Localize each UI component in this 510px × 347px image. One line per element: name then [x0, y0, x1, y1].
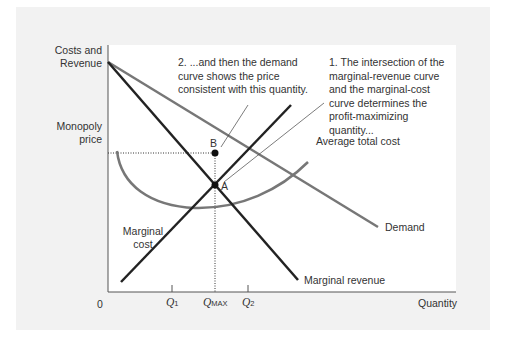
y-axis-title-line1: Costs and [40, 44, 102, 57]
q1-subscript: 1 [174, 299, 178, 308]
x-axis-title: Quantity [418, 297, 457, 310]
monopoly-price-line2: price [40, 133, 102, 146]
demand-label: Demand [385, 221, 425, 234]
qmax-label: QMAX [203, 296, 228, 310]
marginal-cost-label: Marginal cost [118, 225, 168, 251]
y-axis-title-line2: Revenue [40, 57, 102, 70]
annotation-step-2: 2. ...and then the demand curve shows th… [178, 56, 326, 97]
point-a-marker [212, 182, 219, 189]
q2-subscript: 2 [250, 299, 254, 308]
q2-label: Q2 [242, 296, 254, 310]
point-b-label: B [210, 137, 217, 150]
monopoly-price-label: Monopoly price [40, 120, 102, 146]
marginal-cost-line1: Marginal [118, 225, 168, 238]
average-total-cost-curve [117, 151, 308, 208]
origin-label: 0 [97, 298, 103, 311]
marginal-cost-line2: cost [118, 238, 168, 251]
point-b-marker [212, 150, 219, 157]
annotation-step-1: 1. The intersection of the marginal-reve… [329, 56, 455, 137]
qmax-subscript: MAX [211, 299, 227, 308]
q1-label: Q1 [166, 296, 178, 310]
y-axis-title: Costs and Revenue [40, 44, 102, 70]
point-a-label: A [221, 180, 228, 193]
monopoly-price-line1: Monopoly [40, 120, 102, 133]
marginal-revenue-label: Marginal revenue [304, 274, 385, 287]
